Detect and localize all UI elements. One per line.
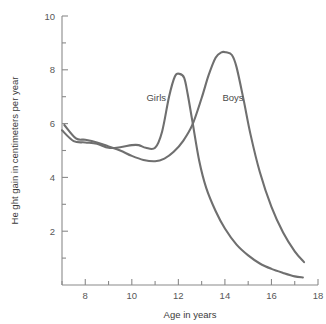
y-tick-label: 4: [50, 172, 55, 183]
growth-velocity-chart: 246810 81012141618 GirlsBoys Age in year…: [0, 0, 326, 324]
chart-canvas: 246810 81012141618 GirlsBoys Age in year…: [0, 0, 326, 324]
x-tick-label: 14: [220, 290, 231, 301]
y-tick-label: 8: [50, 64, 55, 75]
x-axis-title: Age in years: [164, 309, 217, 320]
y-tick-label: 2: [50, 226, 55, 237]
x-tick-label: 8: [83, 290, 88, 301]
x-tick-label: 18: [313, 290, 324, 301]
curve-boys: [64, 52, 304, 262]
y-tick-label: 6: [50, 118, 55, 129]
x-axis-group: 81012141618: [62, 279, 323, 301]
y-axis-group: 246810: [44, 11, 68, 286]
x-axis-tick-labels: 81012141618: [83, 290, 324, 301]
y-axis-title: He ght gain in centimeters per year: [9, 77, 20, 225]
y-axis-tick-labels: 246810: [44, 11, 55, 237]
x-tick-label: 10: [127, 290, 138, 301]
curve-girls: [62, 74, 303, 278]
x-axis-ticks: [62, 279, 318, 285]
x-tick-label: 12: [173, 290, 184, 301]
series-curves: [62, 52, 304, 278]
series-label-girls: Girls: [146, 92, 166, 103]
x-tick-label: 16: [266, 290, 277, 301]
series-annotations: GirlsBoys: [146, 92, 243, 103]
series-label-boys: Boys: [222, 92, 243, 103]
y-tick-label: 10: [44, 11, 55, 22]
